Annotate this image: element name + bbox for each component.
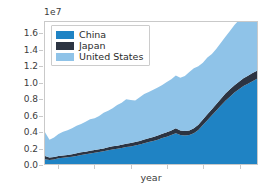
y-axis-tick-label: 1.6: [24, 28, 38, 38]
y-axis-offset-text: 1e7: [44, 7, 62, 17]
legend-item[interactable]: United States: [56, 51, 143, 62]
y-axis-tick-mark: [39, 83, 43, 84]
y-axis-tick-label: 0.8: [24, 94, 38, 104]
legend-item[interactable]: Japan: [56, 40, 143, 51]
y-axis-tick-label: 1.2: [24, 61, 38, 71]
y-axis-tick-mark: [39, 33, 43, 34]
legend-label: Japan: [79, 40, 106, 51]
y-axis-tick-mark: [39, 132, 43, 133]
legend-swatch-icon: [56, 53, 74, 61]
y-axis-tick-mark: [39, 50, 43, 51]
y-axis-tick-mark: [39, 116, 43, 117]
x-axis-tick-mark: [240, 165, 241, 169]
x-axis-tick-mark: [94, 165, 95, 169]
legend-swatch-icon: [56, 42, 74, 50]
y-axis-tick-label: 0.4: [24, 127, 38, 137]
figure-canvas: 1e7 0.00.20.40.60.81.01.21.41.6 year Chi…: [0, 0, 270, 190]
x-axis-label: year: [44, 172, 258, 183]
x-axis-tick-mark: [167, 165, 168, 169]
x-axis-tick-mark: [58, 165, 59, 169]
legend-swatch-icon: [56, 31, 74, 39]
legend-label: China: [79, 29, 106, 40]
legend-item[interactable]: China: [56, 29, 143, 40]
y-axis-tick-labels: 0.00.20.40.60.81.01.21.41.6: [0, 0, 38, 190]
y-axis-tick-mark: [39, 66, 43, 67]
y-axis-tick-label: 0.6: [24, 111, 38, 121]
x-axis-tick-mark: [203, 165, 204, 169]
legend-label: United States: [79, 51, 143, 62]
y-axis-tick-label: 0.2: [24, 144, 38, 154]
y-axis-tick-mark: [39, 165, 43, 166]
y-axis-tick-mark: [39, 149, 43, 150]
y-axis-tick-label: 1.0: [24, 78, 38, 88]
chart-legend: ChinaJapanUnited States: [51, 25, 150, 66]
x-axis-tick-mark: [131, 165, 132, 169]
y-axis-tick-label: 0.0: [24, 160, 38, 170]
y-axis-tick-mark: [39, 99, 43, 100]
y-axis-tick-label: 1.4: [24, 45, 38, 55]
